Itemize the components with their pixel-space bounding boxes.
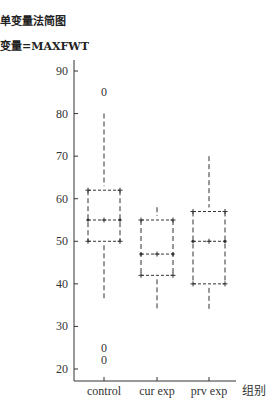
median-dot bbox=[171, 252, 174, 255]
x-tick-label: prv exp bbox=[191, 384, 227, 398]
boxes: 000 bbox=[86, 85, 228, 367]
y-tick-label: 40 bbox=[56, 277, 68, 291]
y-tick-label: 80 bbox=[56, 107, 68, 121]
y-tick-label: 20 bbox=[56, 362, 68, 376]
box-prv-exp bbox=[191, 156, 228, 309]
y-tick-label: 70 bbox=[56, 149, 68, 163]
y-tick-label: 90 bbox=[56, 64, 68, 78]
outlier-marker: 0 bbox=[101, 353, 107, 367]
x-tick-label: cur exp bbox=[139, 384, 175, 398]
axes: 2030405060708090controlcur expprv exp组别 bbox=[56, 60, 266, 398]
y-tick-label: 60 bbox=[56, 192, 68, 206]
median-dot bbox=[191, 240, 194, 243]
box-cur-exp bbox=[139, 207, 176, 309]
y-tick-label: 30 bbox=[56, 319, 68, 333]
outlier-marker: 0 bbox=[101, 85, 107, 99]
median-dot bbox=[223, 240, 226, 243]
median-dot bbox=[118, 218, 121, 221]
y-tick-label: 50 bbox=[56, 234, 68, 248]
x-axis-label: 组别 bbox=[242, 384, 266, 398]
median-dot bbox=[139, 252, 142, 255]
box-control: 000 bbox=[86, 85, 123, 367]
median-dot bbox=[86, 218, 89, 221]
boxplot-chart: 2030405060708090controlcur expprv exp组别 … bbox=[0, 0, 274, 420]
x-tick-label: control bbox=[87, 384, 122, 398]
